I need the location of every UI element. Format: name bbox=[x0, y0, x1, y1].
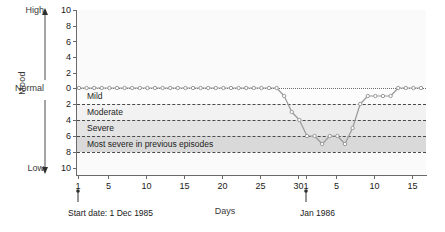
x-tick-label-4: 20 bbox=[212, 181, 232, 191]
start-date-annotation: Start date: 1 Dec 1985 bbox=[68, 208, 153, 218]
x-tickmark-25-5 bbox=[260, 175, 261, 179]
x-tick-label-10: 15 bbox=[402, 181, 422, 191]
y-tick-10-low: 10 bbox=[55, 163, 71, 173]
x-tickmark-5-1 bbox=[108, 175, 109, 179]
x-tickmark-15-3 bbox=[184, 175, 185, 179]
x-tickmark-30-6 bbox=[298, 175, 299, 179]
x-tick-label-5: 25 bbox=[250, 181, 270, 191]
month-marker-icon bbox=[302, 189, 312, 203]
x-tickmark-15-10 bbox=[412, 175, 413, 179]
x-tickmark-1-0 bbox=[78, 175, 79, 179]
y-tick-0: 0 bbox=[55, 83, 71, 93]
x-tickmark-10-2 bbox=[146, 175, 147, 179]
x-tick-label-2: 10 bbox=[136, 181, 156, 191]
y-tick-8-high: 8 bbox=[55, 21, 71, 31]
x-tickmark-10-9 bbox=[374, 175, 375, 179]
start-date-marker-icon bbox=[74, 189, 84, 203]
month-annotation: Jan 1986 bbox=[300, 208, 335, 218]
x-axis-ticks: 151015202530151015 bbox=[76, 175, 427, 197]
x-axis-title: Days bbox=[195, 206, 255, 216]
y-tick-8-low: 8 bbox=[55, 147, 71, 157]
x-tickmark-1-7 bbox=[306, 175, 307, 179]
x-tickmark-20-4 bbox=[222, 175, 223, 179]
y-tick-2-low: 2 bbox=[55, 99, 71, 109]
mood-series bbox=[77, 10, 427, 175]
x-tick-label-3: 15 bbox=[174, 181, 194, 191]
mood-direction-arrows bbox=[38, 8, 52, 174]
x-tick-label-8: 5 bbox=[326, 181, 346, 191]
y-tick-2-high: 2 bbox=[55, 68, 71, 78]
x-tick-label-1: 5 bbox=[98, 181, 118, 191]
y-tick-6-low: 6 bbox=[55, 131, 71, 141]
y-tick-4-low: 4 bbox=[55, 115, 71, 125]
y-tick-6-high: 6 bbox=[55, 37, 71, 47]
x-tickmark-5-8 bbox=[336, 175, 337, 179]
y-tick-4-high: 4 bbox=[55, 52, 71, 62]
mood-life-chart: Mood High Normal Low 10 8 6 4 2 0 2 4 6 … bbox=[0, 0, 445, 232]
y-tick-10-high: 10 bbox=[55, 5, 71, 15]
x-tick-label-9: 10 bbox=[364, 181, 384, 191]
plot-area: Mild Moderate Severe Most severe in prev… bbox=[76, 10, 426, 175]
